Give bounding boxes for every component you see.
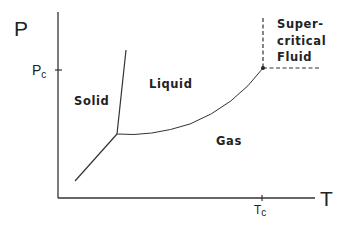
supercritical-label-line1: Super- [277,17,324,31]
gas-region-label: Gas [216,134,242,148]
temperature-axis-label: T [320,187,333,210]
melting-curve [117,50,126,134]
pc-label: Pc [32,62,46,80]
sublimation-curve [75,134,117,181]
liquid-region-label: Liquid [149,77,192,91]
phase-diagram: P T Pc Tc Solid Liquid Gas Super- critic… [0,0,348,227]
pressure-axis-label: P [14,17,28,40]
supercritical-label-line3: Fluid [277,50,312,64]
supercritical-label-line2: critical [277,34,326,48]
solid-region-label: Solid [74,94,109,108]
tc-label: Tc [254,203,266,218]
